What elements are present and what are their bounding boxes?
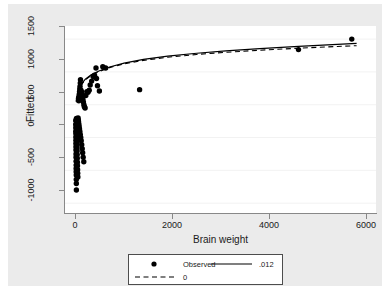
graph-figure-region: Fitted -1000 -500 0 500 1000 1500 0 2000… <box>8 4 382 286</box>
legend-label-012: .012 <box>259 260 274 269</box>
y-tick-mark <box>59 92 64 93</box>
x-axis-title: Brain weight <box>65 234 376 245</box>
plot-region <box>65 26 376 213</box>
chart-screenshot: Fitted -1000 -500 0 500 1000 1500 0 2000… <box>0 0 390 307</box>
x-tick-label: 6000 <box>356 220 376 230</box>
legend-label-0: 0 <box>183 273 187 282</box>
y-tick-label: 1500 <box>26 5 36 47</box>
x-tick-label: 0 <box>72 220 77 230</box>
legend-marker-observed-icon <box>151 261 156 266</box>
y-tick-mark <box>59 124 64 125</box>
x-tick-label: 2000 <box>162 220 182 230</box>
x-tick-mark <box>75 214 76 219</box>
plot-canvas <box>65 26 376 213</box>
fit-line-0 <box>76 46 356 102</box>
x-tick-mark <box>366 214 367 219</box>
x-axis-line <box>64 213 377 214</box>
gridlines <box>65 39 376 203</box>
x-tick-mark <box>172 214 173 219</box>
observed-points <box>73 36 354 192</box>
y-tick-mark <box>59 26 64 27</box>
y-tick-mark <box>59 157 64 158</box>
y-tick-mark <box>59 59 64 60</box>
chart-legend: Observed .012 0 <box>128 254 283 285</box>
x-tick-mark <box>269 214 270 219</box>
y-tick-mark <box>59 190 64 191</box>
legend-label-observed: Observed <box>183 260 216 269</box>
x-tick-label: 4000 <box>259 220 279 230</box>
